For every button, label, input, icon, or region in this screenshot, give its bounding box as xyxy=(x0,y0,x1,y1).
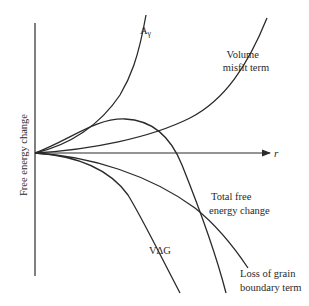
grain-boundary-loss-label: Loss of grain boundary term xyxy=(240,268,302,293)
free-energy-diagram: Free energy change r Aγ Volume misfit te… xyxy=(0,0,309,306)
surface-energy-curve xyxy=(35,15,146,153)
total-free-energy-curve xyxy=(35,119,226,293)
volume-free-energy-label: VΔG xyxy=(149,245,171,256)
total-free-energy-label: Total free energy change xyxy=(209,191,270,216)
volume-misfit-curve xyxy=(35,18,267,153)
x-axis-label: r xyxy=(274,147,279,159)
volume-free-energy-curve xyxy=(35,153,180,293)
y-axis-label: Free energy change xyxy=(18,114,29,196)
